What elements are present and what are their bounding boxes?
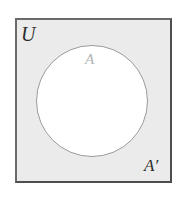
- universal-set-label: U: [21, 24, 35, 44]
- set-a-complement-label: A′: [144, 157, 158, 174]
- set-a-label: A: [85, 52, 94, 67]
- complement-base-letter: A: [144, 156, 154, 175]
- complement-prime-mark: ′: [154, 156, 158, 175]
- venn-diagram-canvas: U A A′: [0, 0, 185, 197]
